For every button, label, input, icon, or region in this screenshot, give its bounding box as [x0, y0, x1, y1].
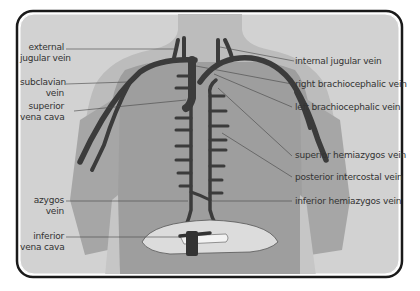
label-superior-hemiazygos-vein: superior hemiazygos vein	[295, 150, 406, 161]
label-subclavian-vein: subclavian vein	[20, 77, 64, 99]
label-superior-vena-cava: superior vena cava	[20, 101, 64, 123]
label-line: jugular vein	[20, 53, 64, 64]
label-line: azygos	[20, 195, 64, 206]
label-line: vena cava	[20, 242, 64, 253]
label-line: vena cava	[20, 112, 64, 123]
label-line: inferior	[20, 231, 64, 242]
label-line: vein	[20, 88, 64, 99]
label-inferior-hemiazygos-vein: inferior hemiazygos vein	[295, 196, 401, 207]
label-line: subclavian	[20, 77, 64, 88]
label-external-jugular-vein: external jugular vein	[20, 42, 64, 64]
label-left-brachiocephalic-vein: left brachiocephalic vein	[295, 102, 400, 113]
label-right-brachiocephalic-vein: right brachiocephalic vein	[295, 79, 407, 90]
venous-system-diagram: external jugular vein subclavian vein su…	[0, 0, 420, 291]
label-internal-jugular-vein: internal jugular vein	[295, 56, 381, 67]
label-inferior-vena-cava: inferior vena cava	[20, 231, 64, 253]
label-line: vein	[20, 206, 64, 217]
label-posterior-intercostal-vein: posterior intercostal vein	[295, 172, 402, 183]
label-line: external	[20, 42, 64, 53]
label-azygos-vein: azygos vein	[20, 195, 64, 217]
label-line: superior	[20, 101, 64, 112]
